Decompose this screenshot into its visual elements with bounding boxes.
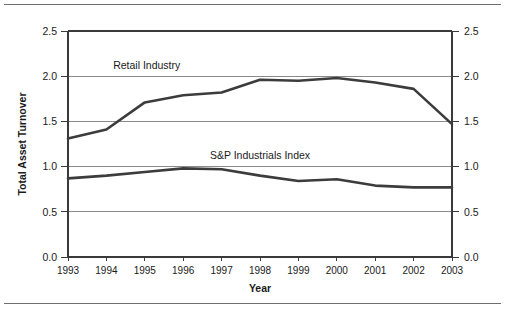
x-tick-label-1997: 1997	[210, 265, 233, 276]
y-tick-label-right-2.0: 2.0	[464, 70, 479, 82]
x-tick-label-1994: 1994	[95, 265, 118, 276]
x-tick-label-2003: 2003	[441, 265, 464, 276]
series-line-0	[68, 78, 452, 139]
y-tick-label-left-2.5: 2.5	[42, 25, 57, 37]
x-tick-label-1996: 1996	[172, 265, 195, 276]
y-tick-label-right-0.5: 0.5	[464, 206, 479, 218]
series-label-1: S&P Industrials Index	[210, 149, 311, 161]
y-axis-title: Total Asset Turnover	[16, 92, 28, 195]
x-axis-labels: 1993199419951996199719981999200020012002…	[57, 265, 464, 276]
y-tick-label-left-1.0: 1.0	[42, 160, 57, 172]
series-annotation-labels: Retail IndustryS&P Industrials Index	[113, 59, 311, 161]
y-tick-label-left-0.5: 0.5	[42, 206, 57, 218]
y-axis-left-labels: 0.00.51.01.52.02.5	[42, 25, 68, 263]
figure-container: 0.00.51.01.52.02.5 0.00.51.01.52.02.5 19…	[0, 0, 505, 319]
y-tick-label-right-1.5: 1.5	[464, 115, 479, 127]
x-axis-title: Year	[249, 282, 271, 294]
x-tick-label-2002: 2002	[402, 265, 425, 276]
y-tick-label-left-1.5: 1.5	[42, 115, 57, 127]
y-tick-label-right-2.5: 2.5	[464, 25, 479, 37]
series-paths-group	[68, 78, 452, 187]
x-tick-label-2000: 2000	[326, 265, 349, 276]
line-chart: 0.00.51.01.52.02.5 0.00.51.01.52.02.5 19…	[0, 0, 505, 319]
y-axis-right-labels: 0.00.51.01.52.02.5	[452, 25, 479, 263]
y-tick-label-left-0.0: 0.0	[42, 251, 57, 263]
y-tick-label-left-2.0: 2.0	[42, 70, 57, 82]
x-tick-label-1995: 1995	[134, 265, 157, 276]
x-tick-label-1993: 1993	[57, 265, 80, 276]
x-tick-label-2001: 2001	[364, 265, 387, 276]
y-tick-label-right-1.0: 1.0	[464, 160, 479, 172]
x-tickmarks-group	[68, 257, 452, 261]
x-tick-label-1998: 1998	[249, 265, 272, 276]
series-label-0: Retail Industry	[113, 59, 181, 71]
series-line-1	[68, 168, 452, 187]
x-tick-label-1999: 1999	[287, 265, 310, 276]
y-tick-label-right-0.0: 0.0	[464, 251, 479, 263]
